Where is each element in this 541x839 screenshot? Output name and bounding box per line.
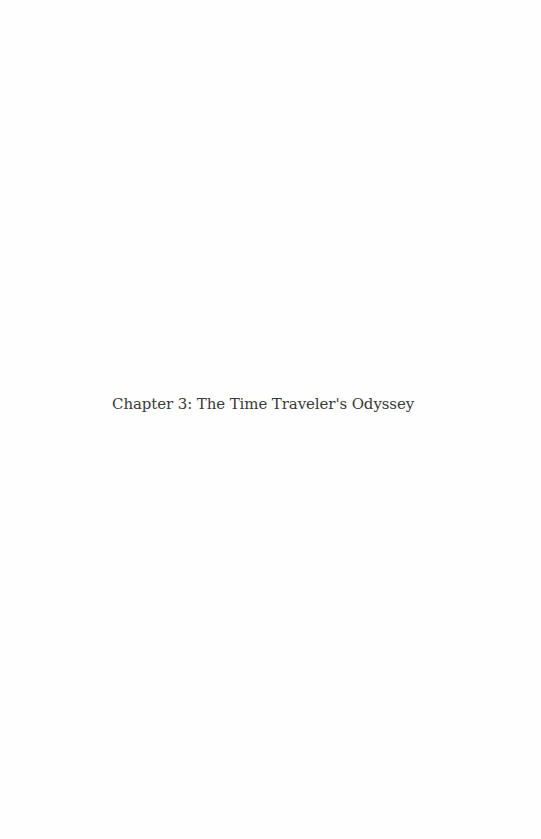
book-page: Chapter 3: The Time Traveler's Odyssey [0, 0, 541, 839]
chapter-title: Chapter 3: The Time Traveler's Odyssey [112, 394, 414, 414]
